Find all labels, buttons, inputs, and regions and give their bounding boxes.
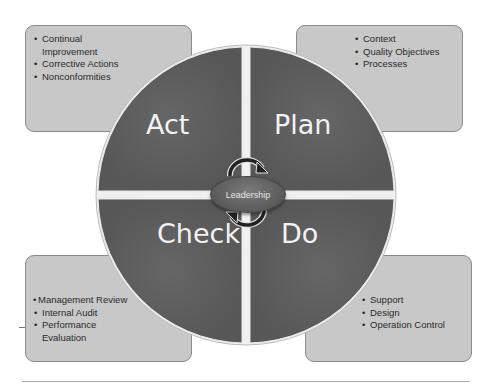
footer-divider <box>22 381 470 382</box>
check-item: Performance Evaluation <box>34 319 102 344</box>
cycle-arrow-top-icon <box>224 154 270 178</box>
divider-tick <box>19 327 25 328</box>
act-label: Act <box>146 109 189 140</box>
leadership-center: Leadership <box>210 176 286 213</box>
plan-label: Plan <box>274 109 331 140</box>
leadership-label: Leadership <box>226 190 271 200</box>
do-segment <box>250 199 394 343</box>
do-label: Do <box>281 218 318 249</box>
